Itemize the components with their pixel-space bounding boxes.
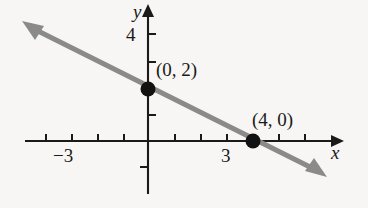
y-axis-arrow-icon — [142, 4, 154, 17]
x-axis-label: x — [331, 143, 339, 162]
graph-figure: −3 3 4 y x (0, 2) (4, 0) — [0, 0, 368, 208]
y-tick-label-4: 4 — [126, 25, 136, 44]
line-arrow-lower-right-icon — [305, 158, 327, 177]
point-4-0-dot — [246, 134, 261, 149]
coordinate-plane-svg — [0, 0, 368, 208]
point-label-0-2: (0, 2) — [156, 60, 197, 79]
x-tick-label-3: 3 — [221, 146, 231, 165]
y-axis-label: y — [133, 2, 141, 21]
line-segment — [32, 28, 318, 171]
x-tick-label-neg3: −3 — [53, 146, 73, 165]
point-label-4-0: (4, 0) — [252, 110, 293, 129]
line-arrow-upper-left-icon — [22, 21, 44, 40]
y-axis — [140, 4, 156, 194]
point-0-2-dot — [141, 82, 156, 97]
